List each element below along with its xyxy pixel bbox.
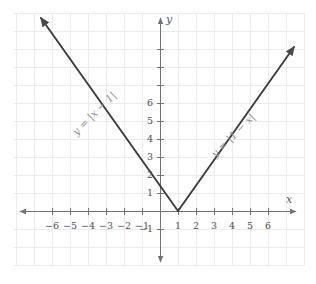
x-tick-label: 2 bbox=[186, 221, 206, 231]
x-tick-label: −6 bbox=[42, 221, 62, 231]
x-tick-label: −4 bbox=[78, 221, 98, 231]
x-tick-label: 6 bbox=[258, 221, 278, 231]
y-axis-label: y bbox=[166, 14, 172, 25]
y-tick-label: 6 bbox=[135, 98, 153, 108]
y-tick-label: −1 bbox=[135, 224, 153, 234]
x-tick-label: −2 bbox=[114, 221, 134, 231]
y-tick-label: 4 bbox=[135, 134, 153, 144]
x-tick-label: 1 bbox=[168, 221, 188, 231]
x-tick-label: −3 bbox=[96, 221, 116, 231]
x-axis-label: x bbox=[286, 194, 292, 205]
x-tick-label: 3 bbox=[204, 221, 224, 231]
x-tick-label: 4 bbox=[222, 221, 242, 231]
absolute-value-graph bbox=[41, 18, 294, 211]
x-tick-label: 5 bbox=[240, 221, 260, 231]
y-tick-label: 1 bbox=[135, 188, 153, 198]
graph-canvas: x y y = |x − 1| y = |1 − x| −6−5−4−3−2−1… bbox=[0, 0, 316, 284]
y-tick-label: 3 bbox=[135, 152, 153, 162]
y-axis bbox=[157, 18, 164, 262]
coordinate-plane-svg bbox=[0, 0, 316, 284]
y-tick-label: 5 bbox=[135, 116, 153, 126]
x-tick-label: −5 bbox=[60, 221, 80, 231]
x-axis bbox=[20, 208, 296, 215]
y-tick-label: 2 bbox=[135, 170, 153, 180]
